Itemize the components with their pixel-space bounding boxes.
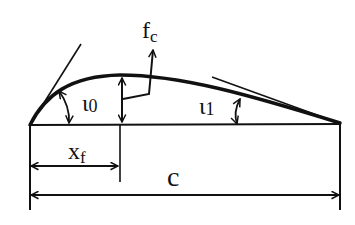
max-camber-label: fc bbox=[142, 17, 158, 46]
leading-edge-angle-arrow bbox=[59, 91, 69, 123]
chord-label: c bbox=[167, 161, 179, 192]
max-camber-position-label: xf bbox=[68, 138, 86, 167]
chord-line bbox=[30, 124, 340, 125]
camber-line bbox=[30, 75, 340, 125]
leading-edge-angle-label: ι0 bbox=[82, 90, 97, 116]
trailing-edge-tangent bbox=[212, 77, 339, 123]
trailing-edge-angle-label: ι1 bbox=[199, 93, 214, 119]
trailing-edge-angle-arrow bbox=[236, 99, 240, 124]
airfoil-diagram: fc ι0 ι1 xf c bbox=[0, 0, 355, 225]
